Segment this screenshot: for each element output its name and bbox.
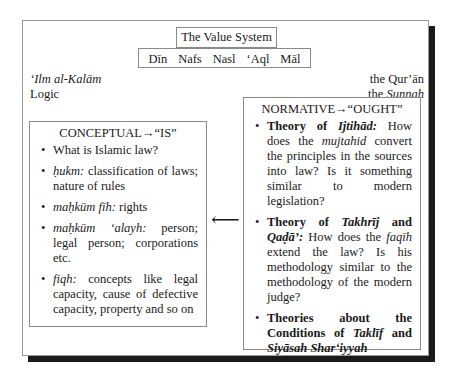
value-system-title: The Value System [176,27,277,48]
pillar-din: Dīn [148,49,167,67]
pillar-mal: Māl [280,49,300,67]
conceptual-box: CONCEPTUAL→“IS” What is Islamic law? ḥuk… [29,121,207,327]
normative-box: NORMATIVE→“OUGHT” Theory of Ijtihād: How… [243,97,421,350]
pillar-nafs: Nafs [178,49,202,67]
list-item: ḥukm: classification of laws; nature of … [38,164,198,194]
logic-label: Logic [30,87,101,102]
ilm-al-kalam-label: ʻIlm al-Kalām [30,72,101,87]
list-item: Theories about the Conditions of Taklīf … [252,311,412,356]
left-source-labels: ʻIlm al-Kalām Logic [30,72,101,102]
normative-list: Theory of Ijtihād: How does the mujtahid… [252,119,412,356]
normative-heading: NORMATIVE→“OUGHT” [252,102,412,117]
list-item: maḥkūm ʻalayh: person; legal person; cor… [38,221,198,266]
value-pillars: Dīn Nafs Nasl ʻAql Māl [138,48,311,68]
conceptual-list: What is Islamic law? ḥukm: classificatio… [38,143,198,317]
quran-label: the Qur’ān [368,72,424,87]
list-item: What is Islamic law? [38,143,198,158]
conceptual-heading: CONCEPTUAL→“IS” [38,126,198,141]
pillar-nasl: Nasl [213,49,236,67]
pillar-aql: ʻAql [247,49,270,67]
left-arrow-icon: ⟵ [211,209,240,229]
list-item: fiqh: concepts like legal capacity, caus… [38,272,198,317]
list-item: maḥkūm fīh: rights [38,200,198,215]
list-item: Theory of Takhrīj and Qaḍā’: How does th… [252,215,412,305]
list-item: Theory of Ijtihād: How does the mujtahid… [252,119,412,209]
